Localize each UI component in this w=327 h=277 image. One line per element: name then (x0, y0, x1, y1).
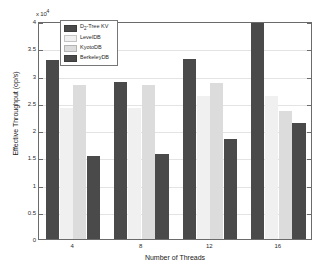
legend-item-label: KyotoDB (80, 45, 102, 51)
y-axis-tick-label: 1.5 (28, 155, 36, 161)
legend-swatch-icon (64, 25, 77, 32)
y-axis-tick-mark (39, 105, 43, 106)
legend-swatch-icon (64, 55, 77, 62)
legend-item[interactable]: BerkeleyDB (64, 53, 114, 63)
gridline (39, 78, 311, 79)
y-axis-tick-label: 0 (33, 237, 36, 243)
y-axis-tick-mark (39, 214, 43, 215)
bar (155, 154, 168, 239)
y-axis-tick-label: 1 (33, 183, 36, 189)
y-axis-exponent-power: 4 (47, 8, 50, 14)
y-axis-tick-label: 2.5 (28, 101, 36, 107)
y-axis-tick-mark (39, 23, 43, 24)
y-axis-exponent-base: x 10 (36, 11, 47, 17)
y-axis-tick-mark-right (307, 159, 311, 160)
bar (197, 96, 210, 239)
x-axis-tick-label: 4 (71, 243, 74, 249)
bar (224, 139, 237, 239)
bar (128, 108, 141, 239)
y-axis-tick-mark-right (307, 105, 311, 106)
y-axis-tick-mark-right (307, 78, 311, 79)
y-axis-tick-label: 4 (33, 19, 36, 25)
bar (292, 123, 305, 239)
y-axis-tick-mark (39, 50, 43, 51)
y-axis-tick-mark-right (307, 132, 311, 133)
y-axis-tick-mark-right (307, 187, 311, 188)
legend-swatch-icon (64, 45, 77, 52)
bar (114, 82, 127, 239)
y-axis-title: Effective Throughput (op/s) (12, 29, 19, 199)
legend-swatch-icon (64, 35, 77, 42)
y-axis-tick-mark-right (307, 50, 311, 51)
y-axis-tick-mark-right (307, 214, 311, 215)
y-axis-exponent-label: x 104 (36, 8, 49, 17)
legend-item[interactable]: KyotoDB (64, 43, 114, 53)
legend-item-label: BerkeleyDB (80, 55, 109, 61)
legend-item-label: LevelDB (80, 35, 101, 41)
x-axis-tick-label: 12 (206, 243, 213, 249)
bar (265, 96, 278, 239)
y-axis-tick-label: 0.5 (28, 210, 36, 216)
legend-item-label: D2-Tree KV (80, 24, 108, 32)
bar (142, 85, 155, 239)
legend-item[interactable]: LevelDB (64, 33, 114, 43)
y-axis-tick-label: 3 (33, 74, 36, 80)
legend-item[interactable]: D2-Tree KV (64, 23, 114, 33)
bar (183, 59, 196, 239)
y-axis-tick-mark (39, 78, 43, 79)
bar (73, 85, 86, 239)
y-axis-tick-mark (39, 159, 43, 160)
bar (251, 22, 264, 239)
x-axis-title: Number of Threads (38, 254, 312, 261)
bar (46, 60, 59, 239)
y-axis-tick-mark (39, 132, 43, 133)
y-axis-tick-label: 3.5 (28, 46, 36, 52)
bar (60, 108, 73, 239)
bar (279, 111, 292, 239)
x-axis-tick-label: 16 (274, 243, 281, 249)
figure-canvas: x 104 Effective Throughput (op/s) 00.511… (0, 0, 327, 277)
x-axis-tick-label: 8 (139, 243, 142, 249)
bar (87, 156, 100, 239)
y-axis-tick-mark (39, 187, 43, 188)
bar (210, 83, 223, 239)
chart-legend: D2-Tree KVLevelDBKyotoDBBerkeleyDB (60, 20, 118, 66)
y-axis-tick-label: 2 (33, 128, 36, 134)
y-axis-tick-mark-right (307, 23, 311, 24)
